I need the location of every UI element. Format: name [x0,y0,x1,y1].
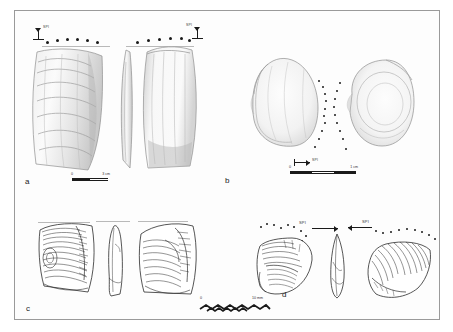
panel-letter-c: c [26,304,30,313]
spi-arrow-right [192,27,203,41]
panel-letter-d: d [282,290,286,299]
scale-zero-label-b: 0 [289,165,291,169]
spi-arrow-d-right [348,224,372,231]
panel-b: SPI 0 1 cm b [226,30,438,190]
artifact-a-left-valve [28,46,114,171]
spi-arrow-center [294,159,310,166]
panel-letter-b: b [225,176,229,185]
artifact-c-dorsal [36,220,98,298]
artifact-d-dorsal [254,232,316,298]
scale-bar-d [198,303,272,311]
spi-label-d-left: SPI [299,220,306,225]
spi-arrow-d-left [312,225,338,232]
scale-zero-label-a: 0 [71,172,73,176]
scale-zero-label-d: 0 [200,296,202,300]
artifact-b-left-valve [248,52,322,150]
panel-letter-a: a [25,177,29,186]
artifact-a-profile [117,48,137,170]
spi-arrow-left [33,28,44,42]
artifact-d-profile [326,232,348,300]
artifact-b-right-valve [340,54,418,152]
artifact-c-ventral [135,220,201,300]
spi-label-right: SPI [186,23,192,27]
panel-a: SPI SPI [14,10,214,195]
scale-end-label-b: 1 cm [350,165,358,169]
panel-d: SPI SPI [250,210,445,325]
artifact-a-right-valve [140,44,202,170]
scale-end-label-a: 3 cm [102,172,110,176]
artifact-c-profile [104,222,128,300]
scale-end-label-d: 10 mm [252,296,263,300]
artifact-d-ventral [362,234,436,300]
figure-root: SPI SPI [0,0,453,332]
spi-label-b: SPI [312,158,318,162]
spi-label-left: SPI [43,25,49,29]
